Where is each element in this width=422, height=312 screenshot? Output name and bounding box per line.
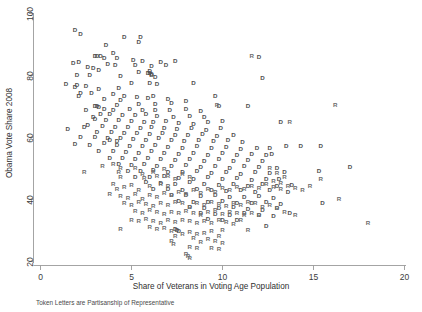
data-token-d: D (118, 72, 123, 79)
data-token-r: R (206, 235, 211, 242)
x-tick-label-20: 20 (400, 272, 409, 282)
data-token-d: D (89, 89, 94, 96)
y-tick-label-20: 20 (25, 251, 35, 273)
y-axis-title: Obama Vote Share 2008 (5, 87, 14, 177)
data-token-d: D (164, 61, 169, 68)
data-token-r: R (333, 101, 338, 108)
data-token-r: R (180, 216, 185, 223)
data-token-r: R (337, 195, 342, 202)
data-token-d: D (102, 95, 107, 102)
data-token-d: D (253, 168, 258, 175)
data-token-d: D (87, 141, 92, 148)
data-token-r: R (202, 217, 207, 224)
data-token-r: R (271, 177, 276, 184)
data-token-d: D (257, 53, 262, 60)
data-token-r: R (238, 216, 243, 223)
data-token-r: R (188, 173, 193, 180)
data-token-d: D (102, 139, 107, 146)
data-token-d: D (149, 71, 154, 78)
data-token-r: R (166, 182, 171, 189)
data-token-d: D (257, 192, 262, 199)
data-token-r: R (220, 184, 225, 191)
data-token-d: D (122, 33, 127, 40)
data-token-r: R (293, 211, 298, 218)
data-token-d: D (135, 93, 140, 100)
data-points-layer: DDDDDDDDDDDDDDDDDDDDDDDDDDDDDDDDDDDDDDDD… (34, 8, 406, 265)
data-token-d: D (224, 168, 229, 175)
data-token-r: R (122, 183, 127, 190)
data-token-r: R (166, 216, 171, 223)
data-token-d: D (264, 222, 269, 229)
data-token-r: R (231, 220, 236, 227)
data-token-r: R (206, 208, 211, 215)
data-token-r: R (171, 240, 176, 247)
data-token-r: R (133, 164, 138, 171)
data-token-r: R (264, 180, 269, 187)
data-token-d: D (213, 92, 218, 99)
data-token-r: R (155, 172, 160, 179)
data-token-d: D (149, 123, 154, 130)
data-token-r: R (147, 182, 152, 189)
data-token-d: D (84, 82, 89, 89)
data-token-r: R (253, 199, 258, 206)
x-tick-label-5: 5 (129, 272, 134, 282)
scatter-plot-figure: Obama Vote Share 2008 DDDDDDDDDDDDDDDDDD… (0, 0, 422, 312)
plot-area: DDDDDDDDDDDDDDDDDDDDDDDDDDDDDDDDDDDDDDDD… (34, 8, 406, 265)
data-token-d: D (82, 123, 87, 130)
data-token-r: R (107, 190, 112, 197)
data-token-d: D (320, 199, 325, 206)
data-token-r: R (198, 189, 203, 196)
data-token-r: R (366, 219, 371, 226)
data-token-d: D (279, 118, 284, 125)
data-token-d: D (218, 124, 223, 131)
data-token-r: R (158, 180, 163, 187)
data-token-d: D (111, 90, 116, 97)
data-token-r: R (142, 174, 147, 181)
data-token-r: R (155, 225, 160, 232)
data-token-r: R (177, 188, 182, 195)
data-token-r: R (213, 188, 218, 195)
data-token-d: D (271, 194, 276, 201)
data-token-d: D (184, 161, 189, 168)
data-token-d: D (299, 142, 304, 149)
data-token-d: D (206, 118, 211, 125)
data-token-d: D (86, 63, 91, 70)
data-token-r: R (155, 208, 160, 215)
data-token-r: R (235, 183, 240, 190)
series-D: DDDDDDDDDDDDDDDDDDDDDDDDDDDDDDDDDDDDDDDD… (64, 26, 353, 235)
data-token-r: R (220, 226, 225, 233)
data-token-r: R (100, 162, 105, 169)
data-token-d: D (173, 57, 178, 64)
data-token-r: R (180, 230, 185, 237)
data-token-r: R (275, 169, 280, 176)
data-token-r: R (213, 206, 218, 213)
data-token-d: D (189, 124, 194, 131)
data-token-r: R (166, 172, 171, 179)
data-token-d: D (231, 131, 236, 138)
data-token-r: R (129, 181, 134, 188)
data-token-d: D (93, 133, 98, 140)
data-token-d: D (76, 92, 81, 99)
y-axis-title-container: Obama Vote Share 2008 (2, 0, 16, 265)
data-token-d: D (155, 80, 160, 87)
data-token-d: D (147, 79, 152, 86)
data-token-d: D (91, 113, 96, 120)
data-token-d: D (97, 66, 102, 73)
data-token-r: R (271, 183, 276, 190)
data-token-d: D (255, 144, 260, 151)
data-token-r: R (319, 175, 324, 182)
data-token-r: R (257, 184, 262, 191)
data-token-d: D (220, 117, 225, 124)
data-token-d: D (169, 99, 174, 106)
data-token-d: D (146, 94, 151, 101)
data-token-r: R (268, 164, 273, 171)
data-token-d: D (151, 92, 156, 99)
data-token-r: R (308, 182, 313, 189)
data-token-d: D (73, 140, 78, 147)
data-token-d: D (129, 79, 134, 86)
data-token-d: D (144, 110, 149, 117)
data-token-r: R (173, 198, 178, 205)
data-token-d: D (97, 147, 102, 154)
data-token-d: D (164, 117, 169, 124)
data-token-r: R (184, 207, 189, 214)
